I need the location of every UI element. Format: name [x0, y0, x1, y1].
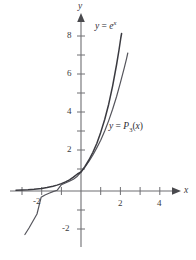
x-axis-label: x [184, 186, 188, 196]
x-tick-label-2: 2 [118, 199, 123, 208]
y-tick-label-minus-2: -2 [62, 224, 70, 233]
plot-canvas [0, 0, 196, 260]
x-tick-label-4: 4 [157, 199, 162, 208]
y-axis-arrow-icon [77, 13, 85, 22]
y-tick-label-6: 6 [67, 69, 72, 78]
y-tick-label-8: 8 [67, 31, 72, 40]
x-tick-label-minus-2: -2 [33, 197, 41, 206]
y-axis-label: y [78, 2, 82, 12]
taylor-polynomial-figure: 8 6 4 2 -2 -2 2 4 y x y = ex y = P3(x) [0, 0, 196, 260]
y-tick-label-4: 4 [67, 107, 72, 116]
x-axis-arrow-icon [172, 187, 181, 195]
exp-curve-label: y = ex [95, 22, 116, 32]
poly-curve-label: y = P3(x) [109, 122, 143, 132]
y-tick-label-2: 2 [67, 145, 72, 154]
poly-curve-p3 [25, 53, 128, 235]
